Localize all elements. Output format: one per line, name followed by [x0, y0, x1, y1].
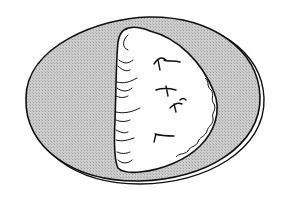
- pastry-on-plate-drawing: [0, 0, 283, 199]
- illustration: [0, 0, 283, 199]
